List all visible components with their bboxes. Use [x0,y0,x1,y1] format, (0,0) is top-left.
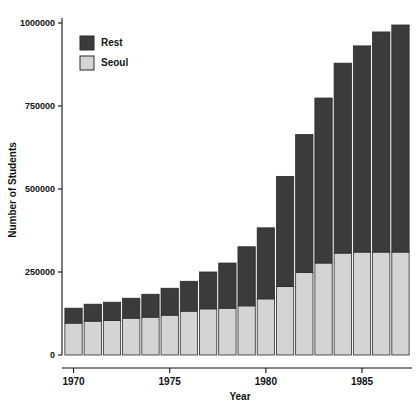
legend-label-rest: Rest [101,37,123,48]
bar-segment-seoul-1981[interactable] [276,287,293,355]
bar-segment-seoul-1986[interactable] [373,252,390,355]
bar-segment-rest-1974[interactable] [142,294,159,317]
y-tick-label: 250000 [25,267,55,277]
y-tick-label: 750000 [25,101,55,111]
bar-1972[interactable] [103,302,120,355]
bar-1985[interactable] [353,46,370,355]
bar-segment-seoul-1982[interactable] [296,272,313,355]
bar-1980[interactable] [257,228,274,355]
bar-1981[interactable] [276,176,293,355]
bar-1974[interactable] [142,294,159,355]
bar-segment-rest-1976[interactable] [180,281,197,311]
bar-segment-seoul-1972[interactable] [103,320,120,355]
bar-1987[interactable] [392,25,409,355]
y-axis-title: Number of Students [7,142,18,238]
bar-segment-rest-1971[interactable] [84,304,101,321]
x-tick-label: 1970 [62,376,85,387]
y-tick-label: 500000 [25,184,55,194]
legend-item-rest[interactable]: Rest [80,36,123,50]
bar-segment-rest-1979[interactable] [238,247,255,306]
x-axis-title: Year [229,391,250,402]
bar-segment-seoul-1976[interactable] [180,311,197,355]
bar-segment-seoul-1979[interactable] [238,306,255,355]
bar-segment-seoul-1987[interactable] [392,252,409,355]
bar-segment-rest-1970[interactable] [65,308,82,323]
bar-segment-rest-1973[interactable] [123,298,140,318]
legend-label-seoul: Seoul [101,57,128,68]
bar-1971[interactable] [84,304,101,355]
bar-segment-seoul-1975[interactable] [161,315,178,355]
legend-swatch-seoul [80,56,94,70]
bar-segment-rest-1975[interactable] [161,288,178,315]
bar-segment-seoul-1983[interactable] [315,263,332,355]
bar-1973[interactable] [123,298,140,355]
bar-1975[interactable] [161,288,178,355]
bar-segment-seoul-1977[interactable] [200,309,217,355]
bar-segment-rest-1977[interactable] [200,272,217,309]
legend-swatch-rest [80,36,94,50]
x-tick-label: 1980 [255,376,278,387]
x-tick-label: 1975 [159,376,182,387]
y-tick-label: 1000000 [20,18,55,28]
bar-segment-rest-1978[interactable] [219,263,236,308]
bar-1977[interactable] [200,272,217,355]
y-tick-label: 0 [50,350,55,360]
bar-1983[interactable] [315,98,332,355]
bar-segment-seoul-1974[interactable] [142,317,159,355]
bar-1984[interactable] [334,63,351,355]
legend-item-seoul[interactable]: Seoul [80,56,128,70]
bar-1970[interactable] [65,308,82,355]
bar-segment-rest-1984[interactable] [334,63,351,253]
bar-segment-rest-1987[interactable] [392,25,409,252]
bar-1979[interactable] [238,247,255,355]
bar-segment-rest-1982[interactable] [296,135,313,273]
bar-segment-rest-1983[interactable] [315,98,332,263]
bar-1986[interactable] [373,32,390,355]
x-tick-label: 1985 [351,376,374,387]
bar-segment-seoul-1978[interactable] [219,308,236,355]
bar-segment-seoul-1973[interactable] [123,318,140,355]
bar-segment-rest-1981[interactable] [276,176,293,286]
bar-segment-rest-1986[interactable] [373,32,390,252]
bar-1978[interactable] [219,263,236,355]
bar-1982[interactable] [296,135,313,355]
bar-segment-seoul-1970[interactable] [65,323,82,355]
bar-segment-seoul-1985[interactable] [353,252,370,355]
bar-segment-seoul-1971[interactable] [84,321,101,355]
bar-segment-rest-1972[interactable] [103,302,120,320]
bar-segment-rest-1980[interactable] [257,228,274,299]
bar-segment-seoul-1980[interactable] [257,299,274,355]
stacked-bar-chart: 0250000500000750000100000019701975198019… [0,0,417,408]
bar-segment-seoul-1984[interactable] [334,253,351,355]
bar-segment-rest-1985[interactable] [353,46,370,252]
bar-1976[interactable] [180,281,197,355]
